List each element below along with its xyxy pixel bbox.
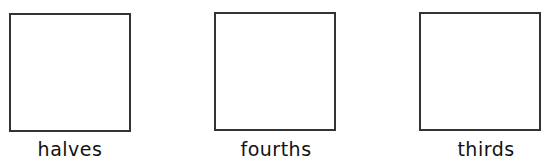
square-halves [9,13,131,132]
label-fourths: fourths [206,138,346,160]
square-thirds [419,12,541,131]
label-thirds: thirds [416,138,549,160]
square-fourths [214,12,336,131]
label-halves: halves [0,138,140,160]
